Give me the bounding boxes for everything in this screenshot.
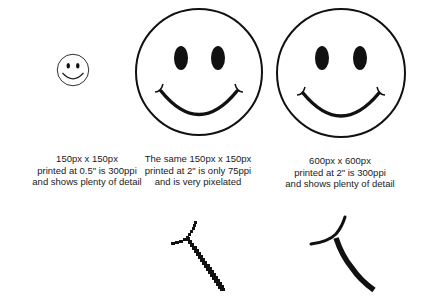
smooth-detail-icon [0, 0, 423, 304]
